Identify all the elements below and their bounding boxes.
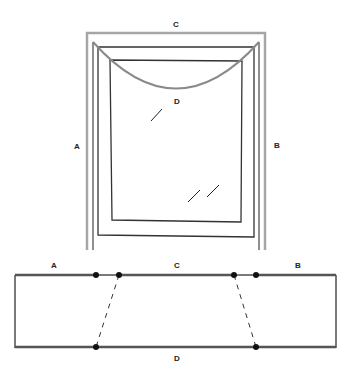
- label-strip-c: C: [174, 261, 180, 270]
- label-strip-a: A: [51, 261, 57, 270]
- label-strip-b: B: [295, 261, 301, 270]
- label-top-c: C: [173, 20, 179, 29]
- middle-frame: [98, 47, 254, 237]
- reflection-mark: [207, 185, 219, 197]
- point-dot: [253, 272, 259, 278]
- reflection-mark: [188, 190, 200, 202]
- swing-arc: [93, 42, 259, 89]
- top-view: C A B D: [74, 20, 280, 250]
- outer-frame: [87, 33, 265, 250]
- label-left-a: A: [74, 142, 80, 151]
- label-strip-d: D: [174, 354, 180, 363]
- dashed-connector-right: [234, 275, 256, 347]
- bottom-strip: A C B D: [15, 261, 336, 363]
- point-dot: [253, 344, 259, 350]
- point-dot: [93, 272, 99, 278]
- dashed-connector-left: [96, 275, 119, 347]
- label-center-d: D: [174, 97, 180, 106]
- point-dot: [116, 272, 122, 278]
- diagram-canvas: C A B D A C B D: [0, 0, 349, 385]
- point-dot: [93, 344, 99, 350]
- label-right-b: B: [274, 141, 280, 150]
- glass-panel: [110, 60, 242, 222]
- reflection-mark: [151, 109, 162, 121]
- point-dot: [231, 272, 237, 278]
